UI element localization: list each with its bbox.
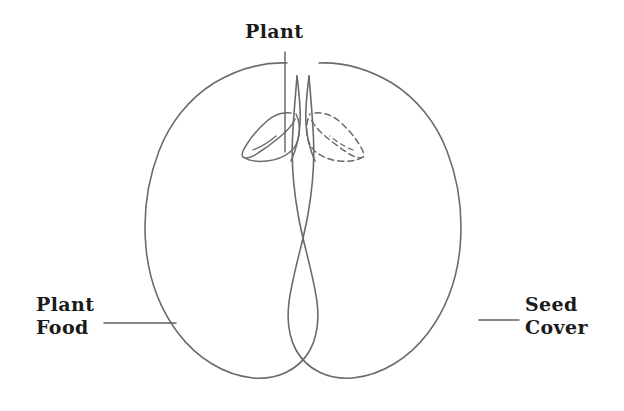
label-seed-cover: SeedCover (525, 293, 588, 339)
label-plant-food-line2: Food (36, 316, 94, 339)
embryo-solid (242, 113, 299, 162)
label-seed-cover-line1: Seed (525, 293, 578, 315)
bean-seed-diagram: Plant PlantFood SeedCover (0, 0, 624, 411)
label-seed-cover-line2: Cover (525, 316, 588, 339)
label-plant: Plant (245, 20, 303, 43)
embryo-dashed (307, 113, 364, 162)
right-cotyledon (288, 63, 461, 378)
left-cotyledon (145, 63, 318, 378)
seed-drawing-svg (0, 0, 624, 411)
label-plant-food: PlantFood (36, 293, 94, 339)
label-plant-food-line1: Plant (36, 293, 94, 315)
